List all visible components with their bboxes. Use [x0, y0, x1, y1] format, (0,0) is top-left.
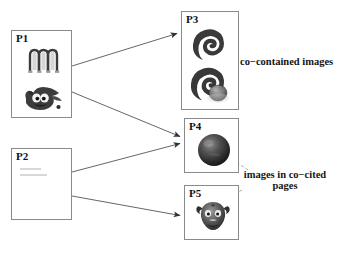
co-contained-images-label: co−contained images — [240, 56, 333, 67]
page-label-p2: P2 — [16, 150, 28, 162]
co-contained-images-text: co−contained images — [240, 56, 333, 67]
gimp-wilber-logo-icon — [22, 83, 64, 113]
debian-swirl-logo-shaded-icon — [188, 65, 232, 105]
gnu-head-logo-icon — [195, 200, 231, 234]
images-in-co-cited-pages-label: images in co−cited pages — [231, 169, 339, 191]
page-box-p4[interactable]: P4 — [184, 118, 239, 173]
arrow-p1-to-p4 — [72, 92, 180, 137]
diagram-canvas: P1 — [0, 0, 346, 255]
page-box-p2[interactable]: P2 — [11, 148, 72, 220]
page-box-p3[interactable]: P3 — [181, 11, 239, 110]
page-box-p5[interactable]: P5 — [184, 185, 239, 240]
arrow-p1-to-p3 — [72, 34, 177, 67]
page-label-p3: P3 — [186, 13, 198, 25]
arrow-p2-to-p5 — [72, 196, 180, 216]
page-text-line — [20, 168, 41, 170]
arrow-p2-to-p4 — [72, 144, 180, 173]
dark-globe-sphere-icon — [196, 132, 232, 168]
page-text-line — [20, 174, 47, 176]
co-cited-label-line1: images in co−cited — [244, 169, 326, 180]
page-label-p1: P1 — [16, 32, 28, 44]
mandrake-m-logo-icon — [26, 45, 60, 75]
page-label-p5: P5 — [189, 187, 201, 199]
page-label-p4: P4 — [189, 120, 201, 132]
page-box-p1[interactable]: P1 — [11, 30, 72, 118]
debian-swirl-logo-plain-icon — [190, 27, 228, 63]
co-cited-label-line2: pages — [272, 180, 297, 191]
